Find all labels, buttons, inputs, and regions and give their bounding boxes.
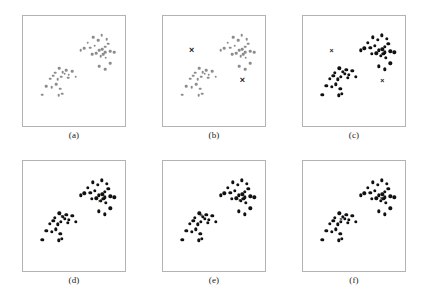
data-point [211, 214, 214, 217]
data-point [363, 192, 366, 195]
centroid-marker-icon: × [330, 47, 334, 54]
data-point [245, 38, 248, 41]
data-point [93, 44, 96, 47]
data-point [60, 75, 63, 78]
data-point [83, 47, 86, 50]
data-point [56, 78, 59, 81]
data-point [345, 68, 348, 71]
scatter-panel-e: ×× [162, 160, 266, 272]
data-point [343, 217, 346, 220]
data-point [57, 94, 60, 97]
data-point [388, 195, 391, 198]
data-point [180, 238, 183, 241]
data-point [249, 62, 252, 65]
data-point [83, 192, 86, 195]
centroid-marker-icon: × [380, 77, 384, 84]
data-point [375, 51, 378, 54]
data-point [380, 179, 383, 182]
data-point [339, 232, 342, 235]
data-point [113, 51, 116, 54]
data-point [388, 207, 391, 210]
data-point [59, 232, 62, 235]
data-point [199, 220, 202, 223]
data-point [248, 207, 251, 210]
data-point [377, 65, 380, 68]
data-point [384, 201, 387, 204]
data-point [104, 201, 107, 204]
data-point [55, 83, 58, 86]
data-point [192, 74, 195, 77]
data-point [320, 93, 323, 96]
data-point [50, 86, 53, 89]
data-point [387, 187, 390, 190]
data-point [247, 187, 250, 190]
data-point [334, 82, 337, 85]
data-point [107, 187, 110, 190]
data-point [325, 229, 328, 232]
data-point [245, 57, 248, 60]
data-point [226, 186, 229, 189]
data-point [63, 73, 66, 76]
data-point [388, 62, 391, 65]
data-point [97, 39, 100, 42]
data-point [105, 182, 108, 185]
data-point [103, 212, 106, 215]
data-point [98, 49, 101, 52]
data-point [336, 223, 339, 226]
data-point [320, 238, 323, 241]
data-point [231, 53, 234, 56]
data-point [332, 219, 335, 222]
data-point [205, 69, 208, 72]
data-point [86, 186, 89, 189]
data-point [223, 47, 226, 50]
panel-caption-c: (c) [302, 130, 406, 140]
data-point [207, 76, 210, 79]
data-point [200, 237, 203, 240]
data-point [108, 195, 111, 198]
data-point [181, 93, 184, 96]
data-point [80, 49, 83, 52]
data-point [54, 227, 57, 230]
data-point [346, 76, 349, 79]
data-point [74, 75, 77, 78]
data-point [90, 197, 93, 200]
data-point [86, 42, 89, 45]
data-point [376, 38, 379, 41]
data-point [376, 183, 379, 186]
data-point [74, 220, 77, 223]
data-point [230, 197, 233, 200]
data-point [105, 38, 108, 41]
data-point [238, 49, 241, 52]
data-point [59, 88, 62, 91]
data-point [354, 75, 357, 78]
data-point [45, 85, 48, 88]
data-point [211, 70, 214, 73]
data-point [384, 56, 387, 59]
data-point [383, 190, 386, 193]
data-point [91, 53, 94, 56]
data-point [343, 72, 346, 75]
data-point [236, 183, 239, 186]
data-point [370, 52, 373, 55]
scatter-panel-a [22, 15, 126, 127]
data-point [340, 92, 343, 95]
data-point [59, 220, 62, 223]
centroid-marker-icon: × [98, 198, 102, 204]
data-point [351, 69, 354, 72]
data-point [65, 69, 68, 72]
data-point [52, 74, 55, 77]
data-point [240, 179, 243, 182]
data-point [370, 197, 373, 200]
centroid-marker-icon: × [238, 197, 242, 203]
data-point [363, 47, 366, 50]
centroid-marker-icon: × [339, 216, 343, 222]
data-point [45, 229, 48, 232]
data-point [93, 189, 96, 192]
data-point [185, 229, 188, 232]
panel-caption-a: (a) [22, 130, 126, 140]
data-point [242, 53, 245, 56]
data-point [385, 182, 388, 185]
data-point [203, 217, 206, 220]
data-point [369, 46, 372, 49]
data-point [393, 50, 396, 53]
